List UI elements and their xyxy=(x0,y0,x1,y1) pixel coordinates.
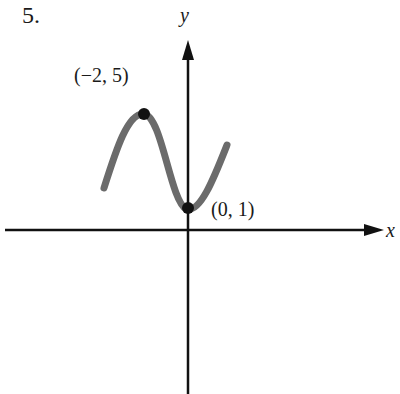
y-axis-arrow-icon xyxy=(182,40,194,60)
x-axis-arrow-icon xyxy=(364,224,384,236)
point-max xyxy=(138,108,150,120)
graph xyxy=(0,0,400,394)
point-min xyxy=(182,202,194,214)
function-curve xyxy=(104,114,227,210)
